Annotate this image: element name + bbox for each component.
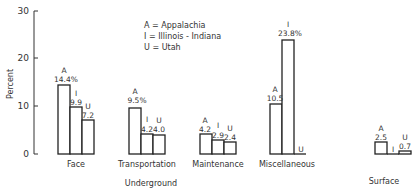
bar-miscellaneous-appalachia — [270, 104, 282, 154]
y-axis — [34, 11, 38, 154]
bar-miscellaneous-illinois-indiana — [282, 40, 294, 154]
y-tick-10: 10 — [18, 101, 30, 111]
label-surface-u-val: 0.7 — [399, 142, 411, 151]
label-transportation-u-val: 4.0 — [153, 125, 165, 134]
bar-transportation-appalachia — [129, 108, 141, 154]
bar-maintenance-illinois-indiana — [212, 140, 224, 154]
label-miscellaneous-i-key: I — [287, 20, 289, 29]
label-maintenance-a-val: 4.2 — [199, 125, 211, 134]
bar-maintenance-appalachia — [200, 134, 212, 154]
bar-face-appalachia — [58, 85, 70, 154]
group-surface: Surface — [369, 177, 400, 186]
bar-surface-utah — [399, 151, 411, 154]
label-maintenance-i-val: 2.9 — [212, 131, 224, 140]
group-underground: Underground — [125, 179, 177, 188]
label-miscellaneous-i-val: 23.8% — [278, 29, 302, 38]
legend-utah: U = Utah — [144, 43, 181, 52]
label-surface-a-key: A — [378, 124, 384, 133]
label-face-i-key: I — [75, 89, 77, 98]
label-face-i-val: 9.9 — [70, 98, 82, 107]
y-axis-label: Percent — [6, 69, 15, 99]
category-maintenance: Maintenance — [192, 160, 244, 169]
label-transportation-i-val: 4.2 — [141, 125, 153, 134]
label-transportation-u-key: U — [156, 116, 162, 125]
bar-transportation-illinois-indiana — [141, 134, 153, 154]
legend-appalachia: A = Appalachia — [144, 21, 206, 30]
label-face-a-key: A — [61, 66, 67, 75]
label-surface-a-val: 2.5 — [375, 133, 387, 142]
label-face-u-val: 7.2 — [82, 111, 94, 120]
category-miscellaneous: Miscellaneous — [259, 160, 315, 169]
bar-face-utah — [82, 120, 94, 154]
category-face: Face — [67, 160, 85, 169]
label-maintenance-i-key: I — [217, 121, 219, 130]
bar-surface-appalachia — [375, 142, 387, 154]
label-maintenance-a-key: A — [202, 116, 208, 125]
bar-transportation-utah — [153, 135, 165, 154]
label-miscellaneous-u-key: U — [298, 145, 304, 154]
category-transportation: Transportation — [117, 160, 176, 169]
legend-illinois-indiana: I = Illinois - Indiana — [144, 32, 221, 41]
label-miscellaneous-a-key: A — [272, 85, 278, 94]
label-face-u-key: U — [85, 102, 91, 111]
label-surface-u-key: U — [402, 133, 408, 142]
y-tick-30: 30 — [18, 6, 30, 16]
label-face-a-val: 14.4% — [54, 75, 78, 84]
y-tick-20: 20 — [18, 53, 30, 63]
y-tick-0: 0 — [23, 149, 29, 159]
bar-maintenance-utah — [224, 142, 236, 154]
label-transportation-i-key: I — [146, 115, 148, 124]
label-maintenance-u-key: U — [227, 124, 233, 133]
label-transportation-a-key: A — [132, 87, 138, 96]
label-miscellaneous-a-val: 10.5 — [267, 94, 284, 103]
bar-face-illinois-indiana — [70, 107, 82, 154]
label-maintenance-u-val: 2.4 — [224, 133, 236, 142]
label-surface-i-key: I — [392, 145, 394, 154]
legend: A = Appalachia I = Illinois - Indiana U … — [144, 21, 221, 52]
label-transportation-a-val: 9.5% — [127, 96, 146, 105]
chart: 30 20 10 0 Percent A = Appalachia I = Il… — [0, 0, 418, 194]
